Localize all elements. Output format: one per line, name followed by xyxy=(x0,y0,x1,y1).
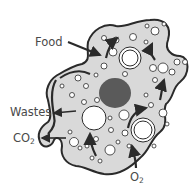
o2-text: O xyxy=(130,170,139,184)
contractile-vacuole xyxy=(82,106,106,130)
label-o2: O2 xyxy=(130,172,144,185)
o2-subscript: 2 xyxy=(139,176,144,185)
label-wastes: Wastes xyxy=(10,107,51,119)
label-food: Food xyxy=(35,37,63,49)
label-co2: CO2 xyxy=(13,133,35,146)
co2-text: CO xyxy=(13,131,30,145)
amoeba-illustration xyxy=(0,0,196,190)
amoeba-diagram: Food Wastes CO2 O2 xyxy=(0,0,196,190)
co2-subscript: 2 xyxy=(30,137,35,146)
food-vacuole-bottom xyxy=(131,118,155,142)
nucleus xyxy=(99,78,131,108)
